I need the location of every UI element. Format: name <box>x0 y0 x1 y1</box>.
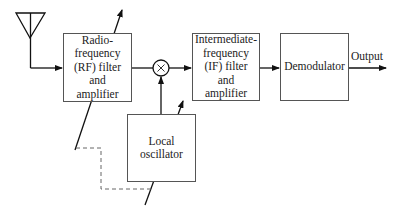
lo-label-line: Local <box>140 135 183 149</box>
antenna-icon <box>16 13 45 68</box>
if-label-line: and <box>195 74 257 88</box>
mixer-icon <box>153 60 169 76</box>
demodulator-block: Demodulator <box>280 33 349 101</box>
if-label-line: Intermediate- <box>195 33 257 47</box>
rf-label-line: (RF) filter <box>74 61 121 75</box>
rf-label-line: amplifier <box>74 88 121 102</box>
lo-label-line: oscillator <box>140 148 183 162</box>
local-oscillator-block: Local oscillator <box>127 114 196 182</box>
rf-label-line: Radio- <box>74 34 121 48</box>
if-filter-amplifier-block: Intermediate- frequency (IF) filter and … <box>192 33 260 101</box>
demodulator-label: Demodulator <box>284 60 345 74</box>
if-label-line: (IF) filter <box>195 60 257 74</box>
output-label: Output <box>351 50 383 62</box>
if-label-line: amplifier <box>195 87 257 101</box>
rf-label-line: frequency <box>74 47 121 61</box>
rf-label-line: and <box>74 74 121 88</box>
if-label-line: frequency <box>195 47 257 61</box>
rf-filter-amplifier-block: Radio- frequency (RF) filter and amplifi… <box>63 33 132 102</box>
